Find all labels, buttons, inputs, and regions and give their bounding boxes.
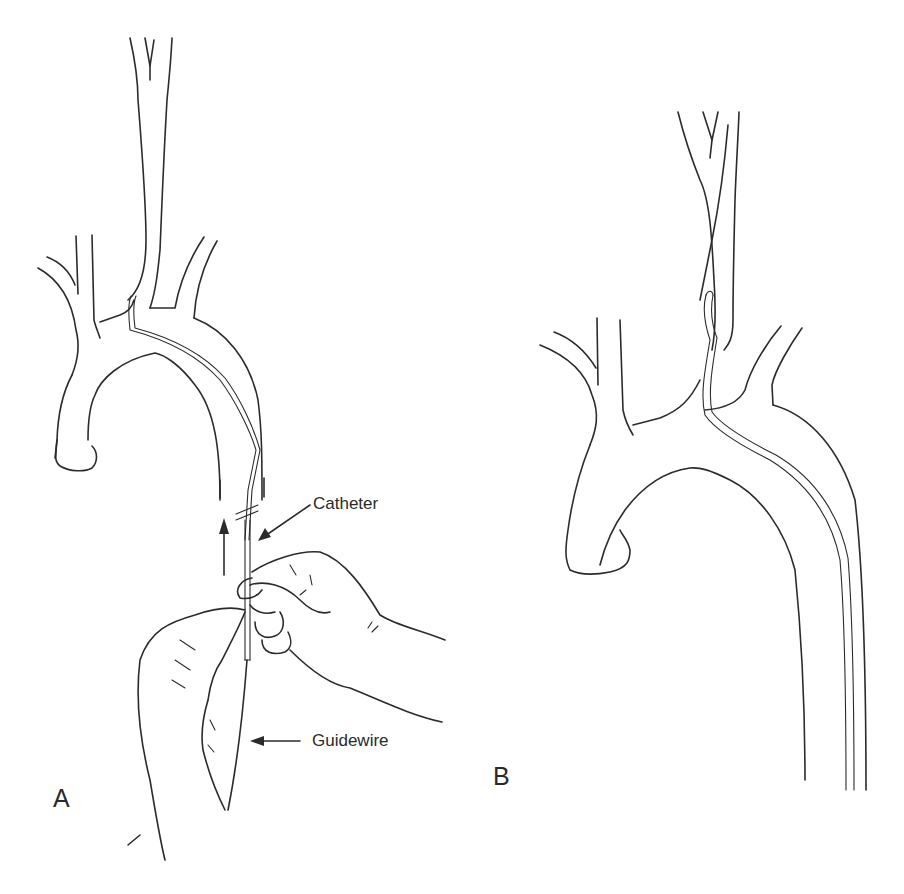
illustration xyxy=(0,0,904,894)
panel-a-aorta xyxy=(38,38,264,540)
guidewire-callout-arrow xyxy=(250,736,300,746)
motion-up-arrow xyxy=(219,518,229,575)
left-hand xyxy=(128,608,245,860)
panel-label-b: B xyxy=(493,762,510,791)
guidewire xyxy=(228,660,247,810)
right-hand xyxy=(238,552,445,722)
catheter-shaft xyxy=(245,520,250,660)
panel-label-a: A xyxy=(53,784,70,813)
catheter-callout-arrow xyxy=(258,505,310,541)
catheter-label: Catheter xyxy=(313,494,378,514)
guidewire-label: Guidewire xyxy=(312,731,389,751)
panel-b-aorta xyxy=(540,112,866,790)
